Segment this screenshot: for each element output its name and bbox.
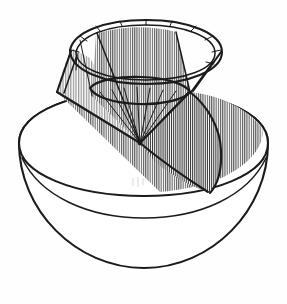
rim-sector-line [212,50,221,52]
cone-apex-point [138,141,143,146]
geometric-figure-drawing [0,0,287,304]
figure-container [0,0,287,304]
apex-dot [138,141,143,146]
